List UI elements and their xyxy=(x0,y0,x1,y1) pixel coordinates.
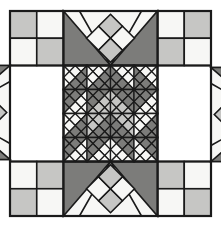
medallion-unit xyxy=(134,90,158,114)
four-patch-square xyxy=(10,162,37,189)
quilt-block-canvas xyxy=(0,0,221,227)
corner-bottom-right-four-patch xyxy=(158,162,212,217)
four-patch-square xyxy=(37,38,64,65)
band-left-chevron xyxy=(0,66,10,160)
band-bottom-chevron xyxy=(64,162,158,217)
medallion-unit xyxy=(87,66,111,90)
medallion-unit xyxy=(111,138,135,162)
medallion-unit xyxy=(87,90,111,114)
four-patch-square xyxy=(37,162,64,189)
four-patch-square xyxy=(10,38,37,65)
medallion-unit xyxy=(134,138,158,162)
medallion-unit xyxy=(111,66,135,90)
medallion-unit xyxy=(87,114,111,138)
medallion-group xyxy=(64,66,158,162)
quilt-block-figure xyxy=(0,0,221,227)
four-patch-square xyxy=(10,189,37,216)
band-top-chevron xyxy=(64,11,158,66)
corner-top-right-four-patch xyxy=(158,11,212,66)
four-patch-square xyxy=(184,11,211,38)
corner-top-left-four-patch xyxy=(10,11,64,66)
four-patch-square xyxy=(184,38,211,65)
four-patch-square xyxy=(184,189,211,216)
four-patch-square xyxy=(37,11,64,38)
corner-bottom-left-four-patch xyxy=(10,162,64,217)
four-patch-square xyxy=(158,38,185,65)
medallion-unit xyxy=(134,66,158,90)
medallion-unit xyxy=(111,114,135,138)
four-patch-square xyxy=(158,162,185,189)
four-patch-square xyxy=(184,162,211,189)
medallion-unit xyxy=(111,90,135,114)
four-patch-square xyxy=(158,189,185,216)
medallion-unit xyxy=(64,114,88,138)
four-patch-square xyxy=(10,11,37,38)
medallion-unit xyxy=(87,138,111,162)
medallion-unit xyxy=(64,90,88,114)
medallion-unit xyxy=(64,138,88,162)
medallion-unit xyxy=(134,114,158,138)
four-patch-square xyxy=(37,189,64,216)
medallion-unit xyxy=(64,66,88,90)
band-right-chevron xyxy=(211,68,221,162)
four-patch-square xyxy=(158,11,185,38)
